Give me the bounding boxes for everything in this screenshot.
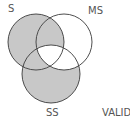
verdict-label: VALID	[102, 107, 130, 118]
label-ss: SS	[46, 107, 59, 118]
label-s: S	[8, 3, 14, 14]
label-ms: MS	[88, 5, 103, 16]
venn-diagram: S MS SS VALID	[0, 0, 130, 121]
